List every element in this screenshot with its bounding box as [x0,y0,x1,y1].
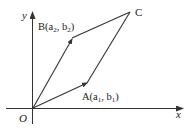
point-B-label: B(a2, b2) [38,21,75,34]
point-C-label: C [135,6,142,18]
y-axis-label: y [21,9,27,21]
point-A-label: A(a1, b1) [82,91,119,104]
x-axis-label: x [175,108,181,120]
side-BC [72,12,130,38]
side-AC [87,12,130,83]
vector-OA [33,83,87,108]
vector-OB [33,39,72,108]
origin-label: O [19,112,27,124]
parallelogram-diagram: y x O C B(a2, b2) A(a1, b1) [0,0,189,139]
